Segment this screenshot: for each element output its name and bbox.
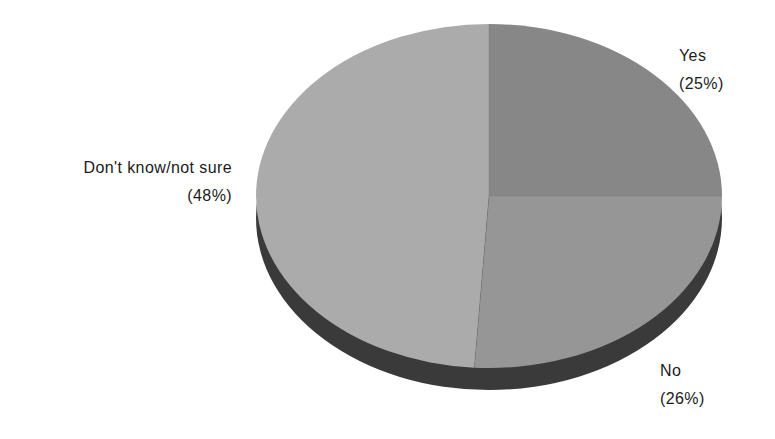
pie-label-dont-know-name: Don't know/not sure <box>44 154 232 182</box>
pie-label-yes-name: Yes <box>679 42 724 70</box>
pie-label-yes-percent: (25%) <box>679 70 724 98</box>
pie-label-no-percent: (26%) <box>660 385 705 413</box>
pie-chart <box>0 0 775 439</box>
pie-label-no: No (26%) <box>660 357 705 413</box>
pie-label-dont-know-percent: (48%) <box>44 182 232 210</box>
pie-label-yes: Yes (25%) <box>679 42 724 98</box>
pie-label-no-name: No <box>660 357 705 385</box>
pie-label-dont-know: Don't know/not sure (48%) <box>44 154 232 210</box>
